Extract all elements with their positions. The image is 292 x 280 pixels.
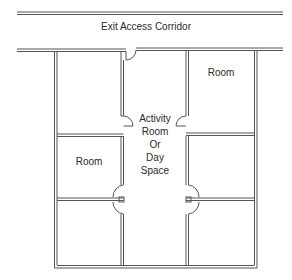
left-divider-2 bbox=[57, 197, 124, 202]
activity-line-3: Or bbox=[124, 138, 186, 151]
room-label-middle-left: Room bbox=[55, 156, 123, 168]
activity-line-5: Space bbox=[124, 164, 186, 177]
left-divider-1 bbox=[57, 134, 124, 137]
entry-door-icon bbox=[126, 50, 136, 60]
right-corridor-wall bbox=[186, 50, 189, 265]
door-left-bottom-icon bbox=[113, 202, 124, 214]
door-right-bottom-icon bbox=[189, 202, 200, 214]
activity-line-4: Day bbox=[124, 151, 186, 164]
door-right-mid-icon bbox=[189, 185, 200, 197]
corridor-wall bbox=[17, 12, 283, 15]
right-divider-1 bbox=[186, 133, 255, 136]
bottom-wall bbox=[55, 266, 258, 269]
building-top-wall bbox=[17, 48, 283, 52]
room-label-top-right: Room bbox=[186, 67, 256, 79]
right-divider-2 bbox=[186, 197, 255, 202]
activity-line-2: Room bbox=[124, 125, 186, 138]
door-left-mid-icon bbox=[113, 185, 124, 197]
activity-room-label: Activity Room Or Day Space bbox=[124, 112, 186, 177]
right-outer-wall bbox=[255, 50, 258, 268]
corridor-label: Exit Access Corridor bbox=[0, 21, 292, 33]
activity-line-1: Activity bbox=[124, 112, 186, 125]
